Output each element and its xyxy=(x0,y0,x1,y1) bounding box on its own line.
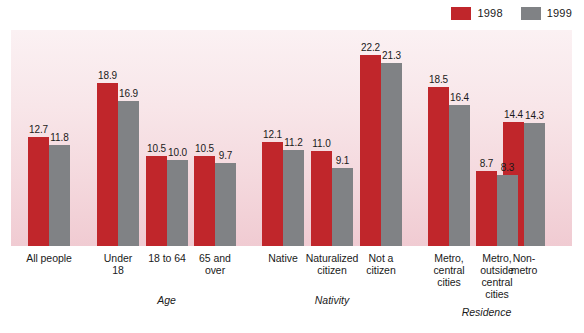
bar-1999-metro-outside-central-cities: 8.3 xyxy=(497,175,518,246)
bar-value-label: 10.0 xyxy=(168,148,187,158)
bar-1999-under-18: 16.9 xyxy=(118,101,139,246)
bar-1999-native: 11.2 xyxy=(283,150,304,246)
bar-value-label: 18.9 xyxy=(98,71,117,81)
bar-chart: 1998 1999 12.718.910.510.512.111.022.218… xyxy=(0,0,584,333)
bar-value-label: 10.5 xyxy=(147,144,166,154)
bar-value-label: 8.3 xyxy=(501,163,515,173)
bar-1998-metro-central-cities: 18.5 xyxy=(428,87,449,246)
group-label-age: Age xyxy=(117,294,217,306)
group-label-residence: Residence xyxy=(437,306,537,318)
bar-value-label: 11.8 xyxy=(50,133,68,143)
bar-value-label: 18.5 xyxy=(429,75,448,85)
bar-1999-not-a-citizen: 21.3 xyxy=(381,63,402,246)
bar-1999-naturalized-citizen: 9.1 xyxy=(332,168,353,246)
group-label-nativity: Nativity xyxy=(282,294,382,306)
bar-1999-65-and-over: 9.7 xyxy=(215,163,236,246)
bar-1998-metro-outside-central-cities: 8.7 xyxy=(476,171,497,246)
bar-value-label: 14.3 xyxy=(525,111,544,121)
legend-item-1999: 1999 xyxy=(521,7,572,20)
bar-value-label: 11.2 xyxy=(284,138,302,148)
bar-value-label: 10.5 xyxy=(195,144,214,154)
plot-area: 12.718.910.510.512.111.022.218.58.714.41… xyxy=(11,30,572,246)
bar-value-label: 21.3 xyxy=(382,51,401,61)
bar-1998-18-to-64: 10.5 xyxy=(146,156,167,246)
bar-1998-not-a-citizen: 22.2 xyxy=(360,55,381,246)
bar-value-label: 12.1 xyxy=(263,130,282,140)
bar-value-label: 22.2 xyxy=(361,43,380,53)
bar-1998-native: 12.1 xyxy=(262,142,283,246)
chart-legend: 1998 1999 xyxy=(451,7,572,20)
bar-1999-non-metro: 14.3 xyxy=(524,123,545,246)
bar-1998-all-people: 12.7 xyxy=(28,137,49,246)
bar-1999-all-people: 11.8 xyxy=(49,145,70,246)
bar-value-label: 12.7 xyxy=(29,125,48,135)
legend-swatch-1999 xyxy=(521,7,541,20)
x-tick-label-all-people: All people xyxy=(9,252,89,264)
bar-value-label: 11.0 xyxy=(312,139,330,149)
bar-value-label: 16.4 xyxy=(450,93,469,103)
legend-label-1998: 1998 xyxy=(477,8,502,19)
bar-value-label: 9.7 xyxy=(219,151,233,161)
bar-1998-naturalized-citizen: 11.0 xyxy=(311,151,332,246)
bar-value-label: 14.4 xyxy=(504,110,523,120)
bar-value-label: 16.9 xyxy=(119,89,138,99)
bar-value-label: 9.1 xyxy=(336,156,350,166)
bar-value-label: 8.7 xyxy=(480,159,494,169)
bar-1998-65-and-over: 10.5 xyxy=(194,156,215,246)
x-tick-label-non-metro: Non-metro xyxy=(484,252,564,276)
legend-swatch-1998 xyxy=(451,7,471,20)
bar-1998-under-18: 18.9 xyxy=(97,83,118,246)
legend-item-1998: 1998 xyxy=(451,7,502,20)
legend-label-1999: 1999 xyxy=(547,8,572,19)
bar-1999-metro-central-cities: 16.4 xyxy=(449,105,470,246)
bar-1999-18-to-64: 10.0 xyxy=(167,160,188,246)
